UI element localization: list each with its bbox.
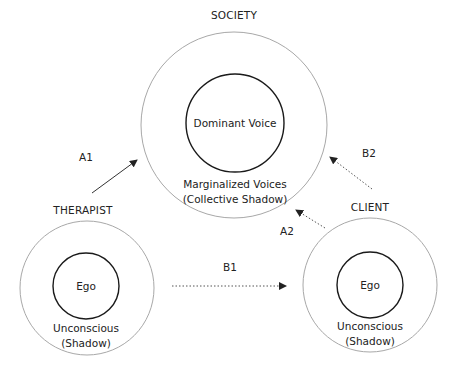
client-node: CLIENT Ego Unconscious (Shadow): [303, 201, 437, 352]
arrow-b1-label: B1: [223, 261, 237, 273]
client-ego-label: Ego: [360, 279, 380, 291]
client-title: CLIENT: [351, 201, 390, 213]
collective-shadow-label: (Collective Shadow): [183, 193, 288, 205]
client-unconscious-label: Unconscious: [337, 320, 403, 332]
therapist-node: THERAPIST Ego Unconscious (Shadow): [20, 204, 154, 355]
arrow-b2-line: [330, 157, 372, 189]
arrow-b1: B1: [172, 261, 286, 286]
arrow-b2: B2: [330, 147, 376, 189]
therapist-unconscious-label: Unconscious: [53, 322, 119, 334]
arrow-a1: A1: [79, 151, 137, 193]
dominant-voice-label: Dominant Voice: [194, 117, 277, 129]
arrow-a1-line: [92, 160, 137, 193]
marginalized-voices-label: Marginalized Voices: [183, 178, 287, 190]
therapist-shadow-label: (Shadow): [61, 337, 111, 349]
therapist-title: THERAPIST: [52, 204, 113, 216]
therapist-ego-label: Ego: [76, 280, 96, 292]
arrow-a2: A2: [280, 210, 325, 237]
society-node: SOCIETY Dominant Voice Marginalized Voic…: [141, 9, 327, 218]
society-title: SOCIETY: [211, 9, 258, 21]
arrow-b2-label: B2: [362, 147, 376, 159]
arrow-a2-label: A2: [280, 225, 294, 237]
therapy-society-diagram: SOCIETY Dominant Voice Marginalized Voic…: [0, 0, 459, 367]
client-shadow-label: (Shadow): [345, 335, 395, 347]
arrow-a1-label: A1: [79, 151, 93, 163]
arrow-a2-line: [296, 210, 325, 228]
